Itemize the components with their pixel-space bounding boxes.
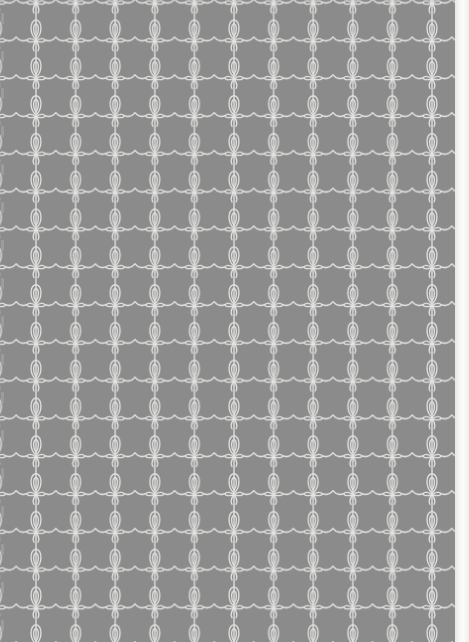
edge-mark [1, 51, 4, 62]
edge-mark [1, 240, 4, 251]
edge-mark [1, 88, 4, 99]
edge-mark [1, 506, 4, 517]
scroll-motif-fill [0, 0, 457, 642]
edge-mark [1, 126, 4, 137]
edge-mark [1, 354, 4, 365]
edge-mark [1, 202, 4, 213]
edge-mark [1, 468, 4, 479]
edge-mark [1, 620, 4, 631]
edge-mark [1, 278, 4, 289]
edge-mark [1, 582, 4, 593]
paper-right-margin [455, 0, 469, 642]
patterned-print [0, 0, 457, 642]
edge-mark [1, 164, 4, 175]
edge-mark [1, 430, 4, 441]
edge-mark [1, 316, 4, 327]
edge-mark [1, 544, 4, 555]
edge-mark [1, 392, 4, 403]
paper-sheet: Gray patterned paper with white ornament… [0, 0, 469, 642]
edge-mark [1, 13, 4, 24]
